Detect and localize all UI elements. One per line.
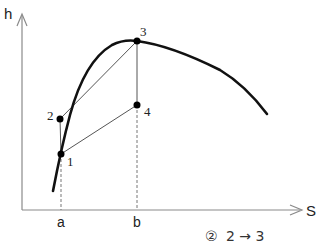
line-1-4 [61, 105, 137, 154]
saturation-curve [53, 40, 267, 191]
y-axis-label: h [4, 5, 12, 22]
option-number: ② [205, 228, 218, 244]
point-4 [134, 102, 141, 109]
x-axis-label: S [306, 202, 316, 219]
h-s-diagram: 1 2 3 4 h S a b [0, 0, 320, 251]
point-4-label: 4 [144, 104, 151, 119]
point-3-label: 3 [140, 24, 147, 39]
point-1 [58, 151, 65, 158]
tick-a-label: a [57, 214, 65, 230]
axes [17, 14, 302, 215]
point-2-label: 2 [47, 108, 54, 123]
point-1-label: 1 [67, 154, 74, 169]
point-2 [57, 116, 64, 123]
answer-option: ② 2 → 3 [205, 228, 264, 244]
option-text: 2 → 3 [226, 228, 264, 244]
tick-b-label: b [133, 214, 141, 230]
